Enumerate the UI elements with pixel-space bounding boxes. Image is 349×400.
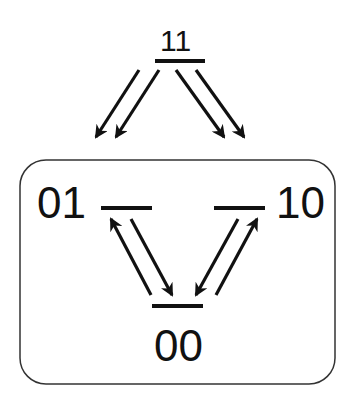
arrow-icon-10-to-00 bbox=[196, 219, 238, 295]
arrow-icon-01-to-00 bbox=[131, 219, 172, 295]
state-diagram: 11 01 10 00 bbox=[0, 0, 349, 400]
state-label-01: 01 bbox=[37, 181, 86, 225]
arrow-icon-11-to-10 bbox=[176, 70, 224, 137]
level-lines-layer bbox=[101, 61, 265, 306]
arrows-layer bbox=[96, 70, 257, 295]
state-label-10: 10 bbox=[276, 181, 325, 225]
arrow-icon-11-to-10 bbox=[196, 70, 244, 137]
arrow-icon-11-to-01 bbox=[96, 70, 139, 137]
arrow-icon-00-to-01 bbox=[111, 219, 151, 295]
state-label-11: 11 bbox=[160, 26, 191, 56]
state-label-00: 00 bbox=[154, 324, 203, 368]
arrow-icon-11-to-01 bbox=[116, 70, 159, 137]
arrow-icon-00-to-10 bbox=[216, 219, 257, 295]
